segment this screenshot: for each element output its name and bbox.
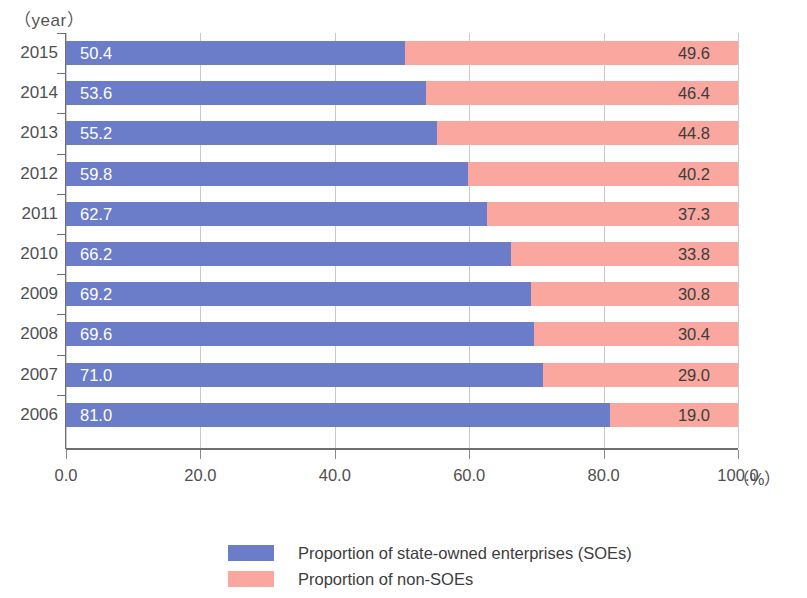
y-axis-tick <box>57 194 66 195</box>
legend-item[interactable]: Proportion of state-owned enterprises (S… <box>228 540 632 566</box>
bar-value-label-soe: 66.2 <box>80 242 112 266</box>
y-axis-category-label: 2006 <box>6 403 58 427</box>
bar-row[interactable]: 50.449.6 <box>66 41 738 65</box>
y-axis-category-label: 2011 <box>6 202 58 226</box>
bar-segment-soe[interactable] <box>66 282 531 306</box>
y-axis-category-label: 2014 <box>6 81 58 105</box>
bar-value-label-non-soe: 33.8 <box>678 242 710 266</box>
bar-row[interactable]: 66.233.8 <box>66 242 738 266</box>
x-axis-tick <box>738 450 739 459</box>
y-axis-tick <box>57 274 66 275</box>
bar-row[interactable]: 53.646.4 <box>66 81 738 105</box>
bar-value-label-soe: 62.7 <box>80 202 112 226</box>
bar-row[interactable]: 62.737.3 <box>66 202 738 226</box>
bar-value-label-soe: 81.0 <box>80 403 112 427</box>
legend-label: Proportion of state-owned enterprises (S… <box>298 544 632 563</box>
bar-row[interactable]: 69.230.8 <box>66 282 738 306</box>
legend-swatch <box>228 545 274 561</box>
y-axis-category-label: 2012 <box>6 162 58 186</box>
y-axis-category-label: 2007 <box>6 363 58 387</box>
bar-value-label-soe: 50.4 <box>80 41 112 65</box>
bar-row[interactable]: 71.029.0 <box>66 363 738 387</box>
y-axis-tick <box>57 33 66 34</box>
bar-value-label-soe: 55.2 <box>80 121 112 145</box>
bar-segment-soe[interactable] <box>66 202 487 226</box>
y-axis-category-label: 2008 <box>6 322 58 346</box>
bar-value-label-non-soe: 30.4 <box>678 322 710 346</box>
bar-value-label-non-soe: 37.3 <box>678 202 710 226</box>
bar-row[interactable]: 69.630.4 <box>66 322 738 346</box>
bar-segment-non-soe[interactable] <box>610 403 738 427</box>
bar-value-label-soe: 59.8 <box>80 162 112 186</box>
x-axis-line <box>66 448 738 450</box>
x-axis-tick-label: 20.0 <box>184 466 216 485</box>
bar-value-label-soe: 69.6 <box>80 322 112 346</box>
y-axis-tick <box>57 395 66 396</box>
x-axis-tick-label: 80.0 <box>588 466 620 485</box>
x-gridline <box>738 33 739 448</box>
bar-value-label-non-soe: 46.4 <box>678 81 710 105</box>
bar-value-label-soe: 69.2 <box>80 282 112 306</box>
y-axis-tick <box>57 234 66 235</box>
x-axis-tick <box>66 450 67 459</box>
bar-segment-soe[interactable] <box>66 121 437 145</box>
legend-item[interactable]: Proportion of non-SOEs <box>228 566 632 592</box>
bar-value-label-non-soe: 30.8 <box>678 282 710 306</box>
y-axis-category-label: 2015 <box>6 41 58 65</box>
bar-value-label-non-soe: 29.0 <box>678 363 710 387</box>
x-axis-tick-label: 40.0 <box>319 466 351 485</box>
x-axis-tick-label: 0.0 <box>55 466 78 485</box>
y-axis-tick <box>57 355 66 356</box>
y-axis-category-label: 2009 <box>6 282 58 306</box>
bar-row[interactable]: 55.244.8 <box>66 121 738 145</box>
bar-segment-soe[interactable] <box>66 41 405 65</box>
bar-segment-soe[interactable] <box>66 322 534 346</box>
bar-segment-soe[interactable] <box>66 162 468 186</box>
y-axis-tick <box>57 113 66 114</box>
legend-swatch <box>228 571 274 587</box>
bar-segment-soe[interactable] <box>66 81 426 105</box>
bar-value-label-soe: 53.6 <box>80 81 112 105</box>
bar-value-label-non-soe: 19.0 <box>678 403 710 427</box>
x-axis-tick <box>200 450 201 459</box>
chart-legend: Proportion of state-owned enterprises (S… <box>228 540 632 592</box>
y-axis-category-label: 2010 <box>6 242 58 266</box>
x-axis-tick <box>335 450 336 459</box>
y-axis-tick <box>57 154 66 155</box>
x-axis-unit-label: （%） <box>733 466 782 490</box>
bar-value-label-non-soe: 49.6 <box>678 41 710 65</box>
bar-value-label-non-soe: 44.8 <box>678 121 710 145</box>
bar-value-label-non-soe: 40.2 <box>678 162 710 186</box>
bar-segment-soe[interactable] <box>66 242 511 266</box>
legend-label: Proportion of non-SOEs <box>298 570 473 589</box>
chart-plot-area: 50.449.653.646.455.244.859.840.262.737.3… <box>66 33 738 448</box>
y-axis-tick <box>57 73 66 74</box>
bar-value-label-soe: 71.0 <box>80 363 112 387</box>
x-axis-tick-label: 60.0 <box>453 466 485 485</box>
year-axis-title: （year） <box>14 6 84 31</box>
bar-segment-soe[interactable] <box>66 403 610 427</box>
y-axis-category-label: 2013 <box>6 121 58 145</box>
bar-row[interactable]: 59.840.2 <box>66 162 738 186</box>
x-axis-tick <box>469 450 470 459</box>
bar-row[interactable]: 81.019.0 <box>66 403 738 427</box>
bar-segment-soe[interactable] <box>66 363 543 387</box>
y-axis-tick <box>57 314 66 315</box>
x-axis-tick <box>604 450 605 459</box>
